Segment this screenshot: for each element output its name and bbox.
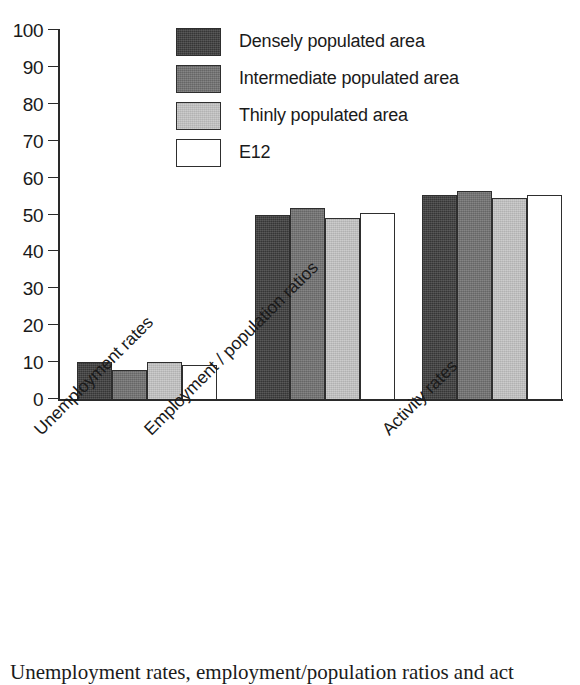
legend-item-label: E12 bbox=[239, 142, 270, 163]
legend-item: E12 bbox=[176, 134, 459, 171]
legend-swatch-icon bbox=[176, 102, 221, 130]
legend-item: Thinly populated area bbox=[176, 97, 459, 134]
legend-item: Intermediate populated area bbox=[176, 60, 459, 97]
bar bbox=[112, 370, 147, 399]
bar bbox=[290, 208, 325, 400]
legend-item-label: Intermediate populated area bbox=[239, 68, 459, 89]
legend-swatch-icon bbox=[176, 28, 221, 56]
bar bbox=[527, 195, 562, 399]
y-axis-tick-label: 70 bbox=[23, 131, 43, 150]
legend-swatch-icon bbox=[176, 139, 221, 167]
y-axis-tick: 20 bbox=[48, 324, 60, 325]
y-axis-tick: 80 bbox=[48, 103, 60, 104]
y-axis-tick: 60 bbox=[48, 177, 60, 178]
y-axis-tick-label: 40 bbox=[23, 242, 43, 261]
y-axis-tick-label: 30 bbox=[23, 279, 43, 298]
y-axis-tick: 30 bbox=[48, 287, 60, 288]
y-axis-tick-label: 100 bbox=[13, 21, 43, 40]
y-axis-tick-label: 60 bbox=[23, 168, 43, 187]
y-axis-tick: 50 bbox=[48, 214, 60, 215]
y-axis-tick-label: 50 bbox=[23, 205, 43, 224]
legend-swatch-icon bbox=[176, 65, 221, 93]
chart-legend: Densely populated areaIntermediate popul… bbox=[176, 23, 459, 171]
legend-item-label: Densely populated area bbox=[239, 31, 425, 52]
y-axis-tick-label: 90 bbox=[23, 57, 43, 76]
figure-caption: Unemployment rates, employment/populatio… bbox=[10, 660, 580, 685]
bar bbox=[457, 191, 492, 399]
y-axis-tick: 10 bbox=[48, 361, 60, 362]
y-axis-tick-label: 20 bbox=[23, 316, 43, 335]
y-axis-tick-label: 10 bbox=[23, 353, 43, 372]
legend-item: Densely populated area bbox=[176, 23, 459, 60]
bar bbox=[492, 198, 527, 399]
y-axis-tick: 40 bbox=[48, 250, 60, 251]
legend-item-label: Thinly populated area bbox=[239, 105, 408, 126]
y-axis-tick: 90 bbox=[48, 66, 60, 67]
y-axis-tick: 70 bbox=[48, 140, 60, 141]
y-axis-tick-label: 0 bbox=[33, 390, 43, 409]
bar bbox=[360, 213, 395, 399]
bar bbox=[325, 218, 360, 399]
y-axis-tick: 100 bbox=[48, 29, 60, 30]
y-axis-tick-label: 80 bbox=[23, 94, 43, 113]
